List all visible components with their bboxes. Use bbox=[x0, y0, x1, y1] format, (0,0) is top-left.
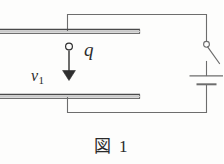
figure-1-capacitor-circuit: q v1 図 1 bbox=[0, 0, 223, 164]
capacitor-bottom-plate bbox=[0, 95, 140, 99]
velocity-label: v1 bbox=[31, 68, 44, 86]
point-charge-icon bbox=[66, 43, 73, 50]
dc-battery-cell-icon bbox=[190, 76, 224, 85]
charge-label: q bbox=[84, 40, 94, 59]
velocity-label-subscript: 1 bbox=[39, 74, 45, 86]
wire-top bbox=[68, 15, 207, 42]
capacitor-top-plate bbox=[0, 30, 140, 34]
velocity-arrow-down-icon bbox=[63, 51, 76, 81]
velocity-label-symbol: v bbox=[31, 67, 38, 84]
figure-caption: 図 1 bbox=[0, 132, 223, 157]
open-switch-icon bbox=[204, 41, 220, 63]
